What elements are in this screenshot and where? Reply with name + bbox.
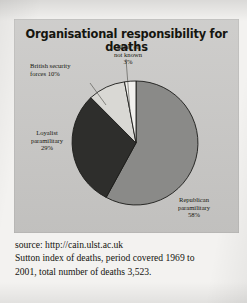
pie-label-loyalist-value: 29%: [41, 144, 53, 151]
pie-label-republican-value: 58%: [188, 211, 200, 218]
caption-detail-line-2: 2001, total number of deaths 3,523.: [15, 265, 237, 278]
pie-label-loyalist-paramilitary: Loyalist paramilitary 29%: [16, 129, 78, 152]
pie-label-british-security-forces: British security forces 10%: [30, 62, 98, 77]
pie-label-british-line1: British security: [30, 62, 70, 69]
pie-label-republican-line1: Republican: [179, 196, 209, 203]
caption-source-line: source: http://cain.ulst.ac.uk: [15, 238, 237, 251]
pie-label-loyalist-line2: paramilitary: [31, 137, 63, 144]
pie-label-republican-paramilitary: Republican paramilitary 58%: [158, 196, 230, 219]
pie-label-other-or-not-known: Other or not known 3%: [100, 43, 156, 66]
pie-label-british-line2: forces 10%: [30, 70, 60, 77]
scanned-page: Organisational responsibility for deaths…: [0, 0, 247, 303]
pie-chart: Other or not known 3% British security f…: [14, 19, 239, 233]
pie-label-other-line2: not known: [114, 51, 142, 58]
figure-caption: source: http://cain.ulst.ac.uk Sutton in…: [15, 238, 237, 278]
figure-panel: Organisational responsibility for deaths…: [14, 19, 239, 233]
pie-label-other-line1: Other or: [117, 43, 139, 50]
pie-label-republican-line2: paramilitary: [178, 204, 210, 211]
pie-label-other-value: 3%: [124, 58, 133, 65]
pie-label-loyalist-line1: Loyalist: [36, 129, 58, 136]
caption-detail-line-1: Sutton index of deaths, period covered 1…: [15, 251, 237, 264]
